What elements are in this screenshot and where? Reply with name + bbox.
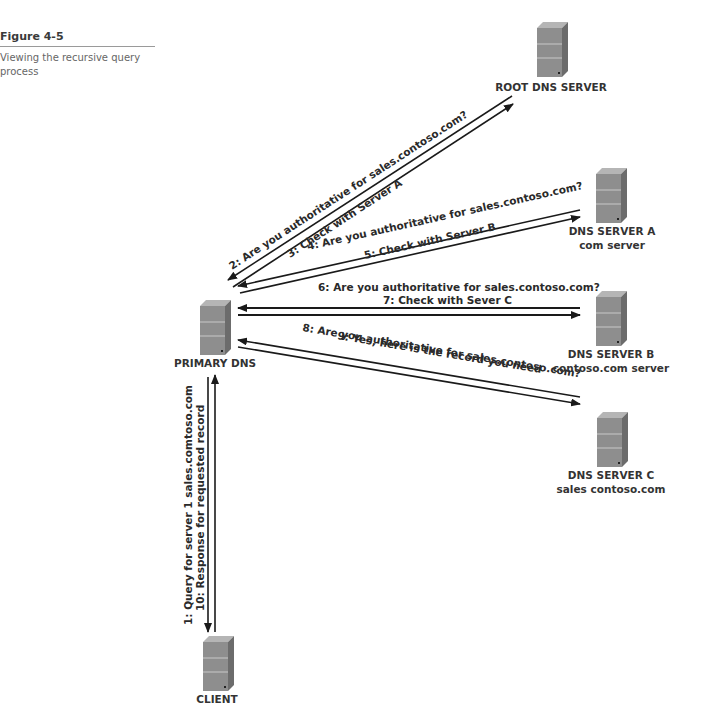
server-b-sublabel: contoso.com server: [553, 361, 669, 375]
primary-label: PRIMARY DNS: [174, 356, 256, 370]
server-c-label: DNS SERVER C: [557, 468, 666, 482]
server-icon-b: [596, 291, 627, 346]
message-6: 6: Are you authoritative for sales.conto…: [318, 281, 600, 293]
node-label-server-c: DNS SERVER C sales contoso.com: [557, 468, 666, 496]
message-10: 10: Response for requested record: [194, 405, 206, 611]
server-c-sublabel: sales contoso.com: [557, 482, 666, 496]
server-icon-primary: [200, 300, 231, 355]
message-1: 1: Query for server 1 sales.comtoso.com: [182, 385, 194, 625]
node-label-server-a: DNS SERVER A com server: [569, 224, 656, 252]
arrow-pair-client: [208, 375, 215, 632]
message-7: 7: Check with Sever C: [383, 294, 512, 306]
client-label: CLIENT: [196, 692, 237, 706]
arrow-pair-server-b: [238, 308, 580, 315]
node-label-client: CLIENT: [196, 692, 237, 706]
arrow-primary-to-c: [238, 347, 580, 404]
server-a-label: DNS SERVER A: [569, 224, 656, 238]
server-icon-client: [203, 636, 234, 691]
node-label-root: ROOT DNS SERVER: [495, 80, 607, 94]
node-label-server-b: DNS SERVER B contoso.com server: [553, 347, 669, 375]
server-icon-a: [596, 168, 627, 223]
message-2: 2: Are you authoritative for sales.conto…: [227, 108, 470, 272]
server-icon-c: [597, 412, 628, 467]
root-label: ROOT DNS SERVER: [495, 80, 607, 94]
server-icon-root: [537, 22, 568, 77]
node-label-primary: PRIMARY DNS: [174, 356, 256, 370]
server-a-sublabel: com server: [569, 238, 656, 252]
server-b-label: DNS SERVER B: [553, 347, 669, 361]
